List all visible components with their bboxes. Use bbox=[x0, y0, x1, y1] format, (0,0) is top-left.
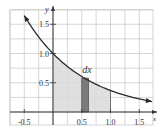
dx-label: dx bbox=[82, 64, 92, 75]
svg-text:0.5: 0.5 bbox=[39, 79, 49, 88]
svg-text:1.0: 1.0 bbox=[39, 50, 49, 59]
svg-text:1.5: 1.5 bbox=[134, 118, 144, 127]
chart: -0.50.51.01.50.51.01.5 dx x y bbox=[0, 0, 162, 134]
svg-text:-0.5: -0.5 bbox=[18, 118, 31, 127]
svg-text:0.5: 0.5 bbox=[77, 118, 87, 127]
dx-strip bbox=[82, 78, 89, 112]
svg-text:1.0: 1.0 bbox=[106, 118, 116, 127]
svg-text:1.5: 1.5 bbox=[39, 20, 49, 29]
y-axis-label: y bbox=[44, 5, 49, 14]
x-axis-label: x bbox=[152, 115, 157, 123]
